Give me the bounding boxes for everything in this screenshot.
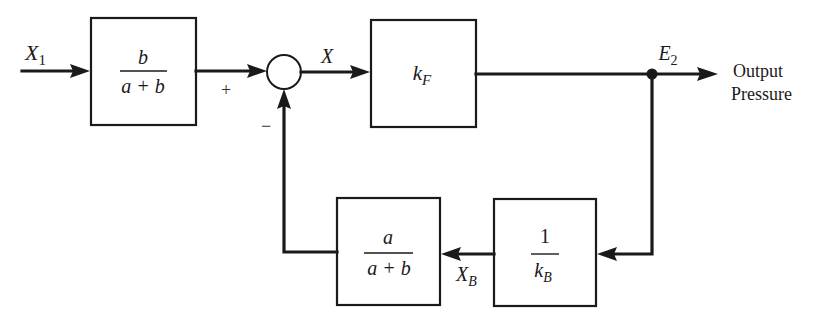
block-forward-gain-numerator: b xyxy=(138,46,148,68)
output-arrowhead-icon xyxy=(697,67,718,81)
output-signal-label: E2 xyxy=(657,42,677,68)
output-label-line2: Pressure xyxy=(731,84,792,104)
arrowhead-icon xyxy=(247,64,267,78)
output-signal: E2 Output Pressure xyxy=(476,42,792,104)
block-forward-gain-denominator: a + b xyxy=(121,75,165,97)
input-arrowhead-icon xyxy=(70,64,90,78)
block-diagram: X1 b a + b + − X kF E2 Output Pressure xyxy=(0,0,823,324)
input-signal: X1 xyxy=(22,40,90,78)
arrowhead-icon xyxy=(277,89,291,109)
block-feedback-gain: 1 kB xyxy=(494,199,596,306)
feedback-path-left xyxy=(277,89,337,252)
feedback-path-right xyxy=(597,74,652,261)
error-signal: X xyxy=(301,45,370,79)
input-label: X1 xyxy=(24,40,46,68)
arrowhead-icon xyxy=(350,65,370,79)
plus-sign: + xyxy=(221,80,231,100)
block-forward-gain: b a + b xyxy=(91,18,196,125)
feedback-signal: XB xyxy=(441,247,494,289)
feedback-signal-label: XB xyxy=(455,263,477,289)
minus-sign: − xyxy=(261,116,271,136)
output-label-line1: Output xyxy=(733,61,783,81)
block-plant: kF xyxy=(371,20,476,127)
block-feedback-ratio-denominator: a + b xyxy=(367,257,411,279)
error-signal-label: X xyxy=(320,45,334,67)
block-feedback-gain-numerator: 1 xyxy=(540,225,550,247)
block-feedback-ratio-numerator: a xyxy=(383,226,393,248)
arrowhead-icon xyxy=(441,247,461,261)
summing-junction xyxy=(267,55,301,89)
arrowhead-icon xyxy=(597,247,617,261)
forward-signal: + xyxy=(196,64,267,100)
block-feedback-ratio: a a + b xyxy=(337,198,440,305)
